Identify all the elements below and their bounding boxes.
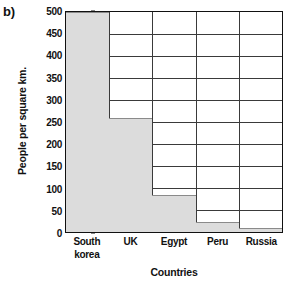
y-axis-tick-label: 250	[46, 117, 62, 128]
bar	[66, 12, 109, 232]
y-axis-tick-labels: 050100150200250300350400450500	[30, 11, 62, 233]
bar-slot	[239, 12, 282, 232]
y-axis-tick-label: 150	[46, 161, 62, 172]
y-axis-tick-label: 100	[46, 183, 62, 194]
y-axis-tick-label: 350	[46, 72, 62, 83]
y-axis-tick-label: 500	[46, 6, 62, 17]
panel-label: b)	[3, 4, 15, 19]
bar	[196, 222, 239, 232]
bar-slot	[109, 12, 152, 232]
y-axis-tick-label: 300	[46, 94, 62, 105]
y-axis-title: People per square km.	[16, 46, 28, 196]
bar	[152, 195, 195, 232]
bar	[109, 118, 152, 232]
plot-area	[65, 11, 283, 233]
x-axis-tick-label: Russia	[239, 236, 283, 261]
y-axis-tick-label: 450	[46, 28, 62, 39]
x-axis-tick-labels: SouthkoreaUKEgyptPeruRussia	[65, 236, 283, 261]
y-axis-tick-label: 0	[57, 228, 62, 239]
x-axis-title: Countries	[65, 266, 283, 278]
y-axis-tick-label: 400	[46, 50, 62, 61]
y-axis-tick-label: 200	[46, 139, 62, 150]
x-axis-tick-label: Peru	[196, 236, 240, 261]
x-axis-tick-label: Egypt	[152, 236, 196, 261]
bar-slot	[66, 12, 109, 232]
bar-slot	[196, 12, 239, 232]
bar-series	[66, 12, 282, 232]
x-axis-tick-label: Southkorea	[65, 236, 109, 261]
bar	[239, 228, 282, 232]
bar-slot	[152, 12, 195, 232]
y-axis-tick-label: 50	[51, 205, 62, 216]
x-axis-tick-label: UK	[109, 236, 153, 261]
